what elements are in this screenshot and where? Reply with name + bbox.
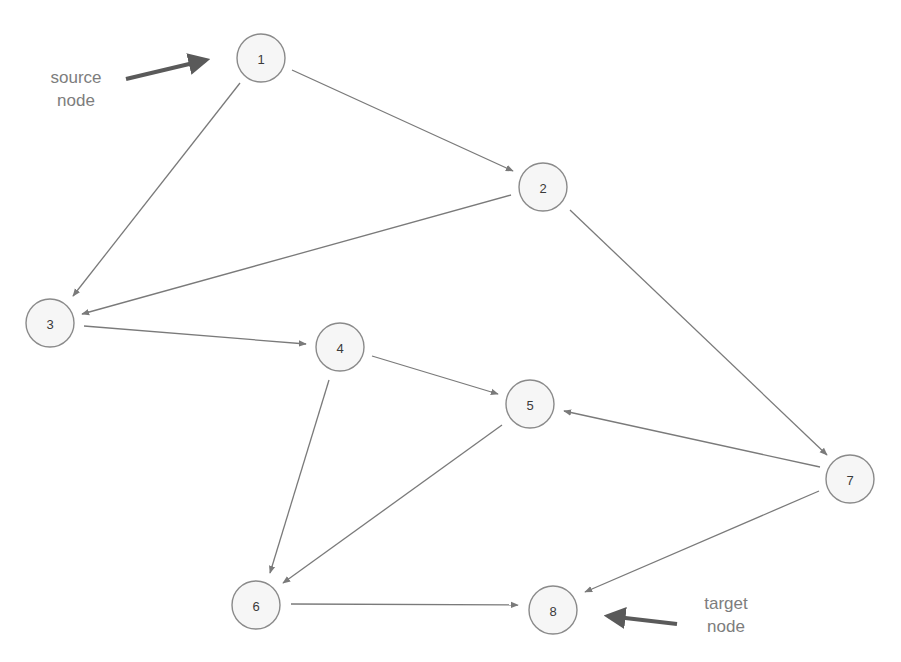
node-4: 4 (316, 323, 364, 371)
target-node-annotation: target node (686, 592, 766, 638)
edge-2-to-3 (82, 195, 511, 314)
edge-7-to-8 (585, 491, 819, 592)
node-label: 4 (336, 341, 343, 356)
edge-4-to-5 (372, 356, 498, 394)
pointers-layer (126, 60, 677, 624)
node-2: 2 (519, 163, 567, 211)
node-label: 7 (846, 473, 853, 488)
graph-canvas: 12345678 (0, 0, 901, 662)
node-label: 1 (257, 52, 264, 67)
edge-3-to-4 (84, 326, 306, 344)
source-annotation-line2: node (36, 89, 116, 112)
edge-4-to-6 (270, 380, 329, 573)
node-label: 6 (252, 599, 259, 614)
node-3: 3 (26, 299, 74, 347)
node-6: 6 (232, 581, 280, 629)
source-node-annotation: source node (36, 66, 116, 112)
target-annotation-line1: target (686, 592, 766, 615)
node-label: 5 (526, 398, 533, 413)
node-label: 3 (46, 317, 53, 332)
node-1: 1 (237, 34, 285, 82)
edge-7-to-5 (564, 411, 820, 467)
target-pointer-arrow-icon (608, 616, 677, 624)
edge-2-to-7 (570, 210, 827, 455)
edge-5-to-6 (283, 425, 502, 583)
edge-6-to-8 (291, 604, 518, 605)
edge-1-to-3 (73, 83, 240, 296)
node-5: 5 (506, 380, 554, 428)
node-label: 8 (549, 604, 556, 619)
node-7: 7 (826, 455, 874, 503)
edges-layer (73, 70, 827, 605)
edge-1-to-2 (292, 70, 513, 171)
target-annotation-line2: node (686, 615, 766, 638)
nodes-layer: 12345678 (26, 34, 874, 634)
node-8: 8 (529, 586, 577, 634)
source-annotation-line1: source (36, 66, 116, 89)
node-label: 2 (539, 181, 546, 196)
source-pointer-arrow-icon (126, 60, 206, 79)
